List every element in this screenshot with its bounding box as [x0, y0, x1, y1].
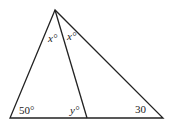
triangle-diagram: x° x° 50° y° 30 — [0, 0, 173, 127]
cevian-foot-angle-label: y° — [69, 104, 80, 116]
apex-right-angle-label: x° — [66, 30, 77, 42]
bottom-right-angle-label: 30 — [135, 103, 147, 115]
bottom-left-angle-label: 50° — [19, 104, 34, 116]
outer-triangle — [10, 10, 163, 118]
apex-left-angle-label: x° — [47, 32, 58, 44]
